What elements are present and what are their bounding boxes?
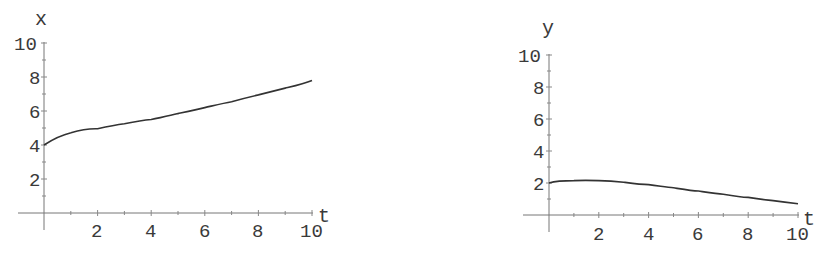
curve-x-of-t (44, 80, 312, 145)
curve-y-of-t (549, 180, 798, 203)
y-tick-label: 6 (533, 110, 544, 132)
y-tick-label: 2 (29, 170, 40, 192)
x-tick-label: 8 (252, 221, 263, 243)
y-tick-label: 10 (14, 34, 37, 56)
x-axis-label-t: t (318, 205, 330, 228)
plot-y-vs-t: 2 4 6 8 10 2 4 6 8 10 y t (518, 17, 815, 246)
x-tick-label: 8 (742, 224, 753, 246)
y-axis-label-y: y (542, 17, 554, 40)
y-tick-label: 2 (533, 174, 544, 196)
x-tick-label: 4 (643, 224, 654, 246)
plot-x-vs-t: 2 4 6 8 10 2 4 6 8 10 x t (14, 8, 330, 243)
x-tick-label: 2 (593, 224, 604, 246)
y-tick-label: 10 (518, 46, 541, 68)
x-tick-label: 2 (91, 221, 102, 243)
y-tick-label: 6 (29, 102, 40, 124)
x-tick-label: 6 (692, 224, 703, 246)
x-tick-label: 6 (199, 221, 210, 243)
y-tick-label: 4 (533, 142, 544, 164)
y-tick-label: 8 (29, 68, 40, 90)
x-axis-label-t: t (803, 208, 815, 231)
x-tick-label: 4 (145, 221, 156, 243)
y-tick-label: 8 (533, 78, 544, 100)
y-axis-label-x: x (35, 8, 47, 31)
y-tick-label: 4 (29, 136, 40, 158)
chart-canvas: 2 4 6 8 10 2 4 6 8 10 x t (0, 0, 818, 256)
